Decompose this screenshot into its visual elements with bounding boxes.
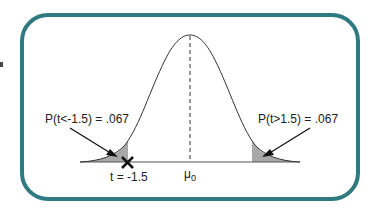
left-tail-shade [82, 141, 128, 162]
t-value-label: t = -1.5 [110, 170, 148, 184]
right-arrow [262, 128, 310, 157]
t-distribution-diagram: P(t<-1.5) = .067 P(t>1.5) = .067 t = -1.… [0, 0, 383, 214]
left-arrow [70, 128, 118, 157]
right-tail-label: P(t>1.5) = .067 [258, 112, 338, 126]
mean-label: μ0 [184, 167, 196, 183]
left-tail-label: P(t<-1.5) = .067 [45, 112, 129, 126]
right-tail-shade [252, 141, 300, 162]
